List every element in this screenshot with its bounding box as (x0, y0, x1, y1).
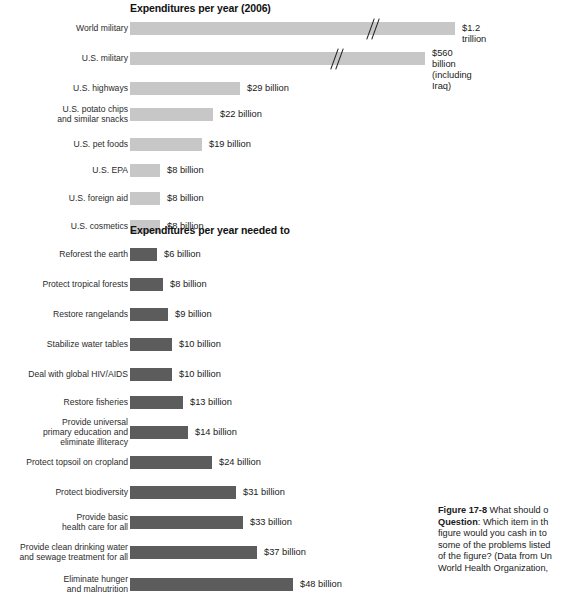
bar-value-label: $13 billion (190, 397, 232, 408)
bar-row-label: U.S. foreign aid (2, 193, 128, 203)
bar (130, 108, 213, 121)
bar-value-label: $22 billion (220, 109, 262, 120)
figure-caption-lead: What should o (487, 505, 548, 515)
bar-row-label: Stabilize water tables (2, 339, 128, 349)
bar-value-label: $8 billion (170, 279, 207, 290)
bar (130, 22, 455, 35)
bar (130, 516, 243, 529)
question-label: Question (438, 517, 478, 527)
bar (130, 426, 188, 439)
bar (130, 338, 172, 351)
bar-value-label: $10 billion (179, 369, 221, 380)
figure-caption: Figure 17-8 What should o Question: Whic… (438, 505, 574, 575)
bar-row-label: U.S. military (2, 53, 128, 63)
bar-row-label: U.S. highways (2, 83, 128, 93)
bar (130, 486, 236, 499)
bar-row-label: Provide clean drinking water and sewage … (2, 542, 128, 563)
bar-value-label: $48 billion (300, 579, 342, 590)
question-line-3: of the figure? (Data from Un (438, 551, 552, 561)
bar-value-label: $10 billion (179, 339, 221, 350)
question-line-0: : Which item in th (478, 517, 548, 527)
bar (130, 192, 160, 205)
bar (130, 578, 293, 591)
section-title-expenditures-needed: Expenditures per year needed to (130, 224, 290, 236)
bar-value-label: $560 billion (including Iraq) (432, 48, 472, 92)
section-title-expenditures-per-year: Expenditures per year (2006) (130, 2, 271, 14)
bar-value-label: $24 billion (219, 457, 261, 468)
question-line-2: some of the problems listed (438, 540, 550, 550)
bar-row-label: Provide basic health care for all (2, 512, 128, 533)
bar-value-label: $9 billion (175, 309, 212, 320)
bar-row-label: Protect tropical forests (2, 279, 128, 289)
bar-row-label: U.S. cosmetics (2, 221, 128, 231)
question-line-1: figure would you cash in to (438, 528, 547, 538)
bar-value-label: $1.2 trillion (462, 23, 486, 45)
bar (130, 164, 160, 177)
bar-value-label: $33 billion (250, 517, 292, 528)
bar (130, 308, 168, 321)
bar-row-label: Restore rangelands (2, 309, 128, 319)
bar-row-label: U.S. potato chips and similar snacks (2, 104, 128, 125)
bar-row-label: Protect biodiversity (2, 487, 128, 497)
bar-row-label: Deal with global HIV/AIDS (2, 369, 128, 379)
bar (130, 278, 163, 291)
bar-value-label: $29 billion (247, 83, 289, 94)
bar-value-label: $8 billion (167, 165, 204, 176)
bar (130, 546, 257, 559)
bar-row-label: Provide universal primary education and … (2, 417, 128, 448)
bar-value-label: $19 billion (209, 139, 251, 150)
bar-row-label: Reforest the earth (2, 249, 128, 259)
bar-value-label: $8 billion (167, 193, 204, 204)
bar-row-label: U.S. pet foods (2, 139, 128, 149)
bar (130, 456, 212, 469)
bar (130, 248, 157, 261)
bar-value-label: $14 billion (195, 427, 237, 438)
bar-value-label: $6 billion (164, 249, 201, 260)
bar (130, 82, 240, 95)
bar-value-label: $31 billion (243, 487, 285, 498)
bar-value-label: $37 billion (264, 547, 306, 558)
figure-number: Figure 17-8 (438, 505, 487, 515)
bar-row-label: Protect topsoil on cropland (2, 457, 128, 467)
question-line-4: World Health Organization, (438, 563, 548, 573)
bar-row-label: Eliminate hunger and malnutrition (2, 574, 128, 595)
bar (130, 396, 183, 409)
bar-row-label: U.S. EPA (2, 165, 128, 175)
bar (130, 52, 425, 65)
bar (130, 138, 202, 151)
bar-row-label: Restore fisheries (2, 397, 128, 407)
bar-row-label: World military (2, 23, 128, 33)
bar (130, 368, 172, 381)
